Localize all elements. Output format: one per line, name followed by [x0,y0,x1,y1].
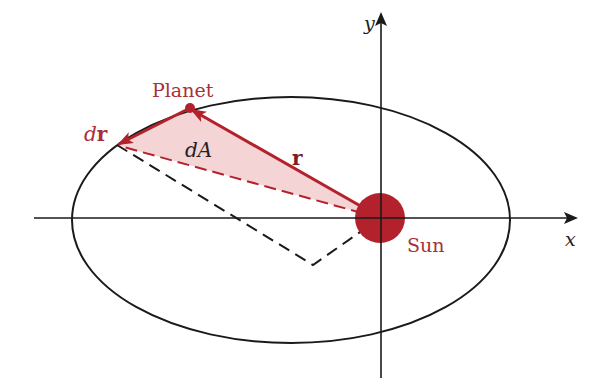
x-axis-label: x [565,228,576,250]
dr-r: r [97,122,108,146]
position-vector-label: r [292,146,303,170]
sun-label: Sun [407,234,445,256]
y-axis-label: y [363,12,375,34]
kepler-diagram: y x Planet Sun dA r dr [0,0,604,392]
dr-d: d [84,122,97,146]
dr-label: dr [84,122,108,146]
area-element-label: dA [185,138,212,162]
r-label: r [292,146,303,170]
planet-label: Planet [152,79,214,101]
planet-icon [185,103,195,113]
